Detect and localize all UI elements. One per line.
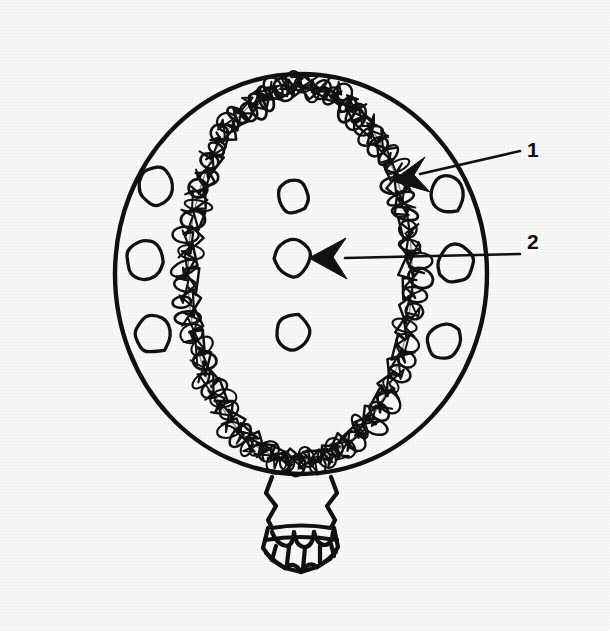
center-circle-middle <box>274 239 310 277</box>
figure-page: 1 2 <box>0 0 610 631</box>
coil-loop <box>185 176 211 202</box>
right-circle-middle <box>438 244 473 282</box>
left-circle-middle <box>127 241 163 280</box>
left-circle-bottom <box>135 315 170 351</box>
coil-loop <box>255 437 284 466</box>
center-circle-bottom <box>277 314 310 350</box>
label-1: 1 <box>527 139 539 160</box>
right-circle-bottom <box>427 324 460 358</box>
pleated-neck-stem <box>263 477 338 572</box>
leader-line-1 <box>392 151 520 192</box>
left-circle-top <box>139 167 172 205</box>
diagram-canvas <box>0 0 610 631</box>
right-circle-top <box>431 176 463 212</box>
center-circle-top <box>279 180 309 213</box>
label-2: 2 <box>527 231 539 252</box>
